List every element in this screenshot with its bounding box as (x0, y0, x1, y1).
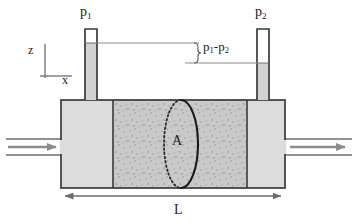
diagram-canvas (0, 0, 359, 223)
label-axis-z: z (28, 44, 33, 56)
manometer-tube-left (85, 29, 97, 100)
manometer-tube-right (257, 29, 269, 100)
label-pressure-right: p2 (255, 5, 267, 19)
packed-bed-diagram: p1 p2 p1-p2 z x A L (0, 0, 359, 223)
label-pressure-difference: p1-p2 (203, 40, 229, 53)
manometer-right-liquid (257, 63, 269, 100)
label-bed-length: L (174, 203, 183, 217)
label-cross-section-area: A (172, 134, 182, 148)
pressure-difference-indicator (97, 43, 258, 63)
label-axis-x: x (62, 74, 68, 86)
label-pressure-left: p1 (80, 5, 92, 19)
manometer-left-liquid (85, 43, 97, 100)
brace-icon (194, 43, 201, 63)
